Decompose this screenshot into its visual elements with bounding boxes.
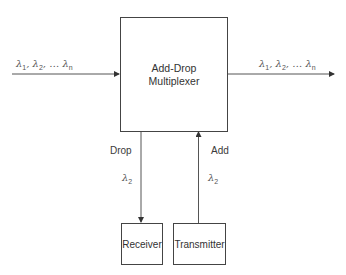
transmitter-block: Transmitter — [173, 223, 226, 265]
main-block-line1: Add-Drop — [149, 62, 200, 74]
receiver-label: Receiver — [122, 239, 161, 250]
main-block-line2: Multiplexer — [149, 75, 200, 87]
add-wavelength-label: λ2 — [208, 173, 218, 185]
add-label: Add — [211, 146, 229, 156]
output-wavelengths-label: λ1, λ2, … λn — [259, 59, 316, 71]
add-drop-multiplexer-block: Add-Drop Multiplexer — [120, 17, 228, 132]
transmitter-label: Transmitter — [174, 239, 224, 250]
drop-label: Drop — [110, 146, 132, 156]
drop-wavelength-label: λ2 — [122, 173, 132, 185]
input-wavelengths-label: λ1, λ2, … λn — [16, 59, 73, 71]
receiver-block: Receiver — [121, 223, 163, 265]
